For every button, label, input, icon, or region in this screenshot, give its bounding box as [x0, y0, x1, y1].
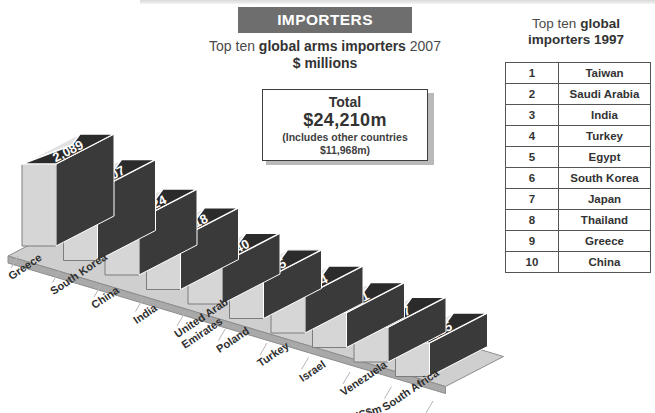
side-table-title: Top ten globalimporters 1997: [500, 16, 652, 48]
table-row: 3India: [506, 105, 651, 126]
category-label: China: [89, 284, 121, 311]
table-row: 1Taiwan: [506, 63, 651, 84]
country-cell: Turkey: [559, 126, 651, 147]
rank-cell: 3: [506, 105, 559, 126]
side-table-title-part-1: Top ten: [532, 16, 580, 31]
subtitle-part-2: global arms importers: [259, 38, 406, 54]
category-label: India: [131, 301, 159, 326]
rank-cell: 4: [506, 126, 559, 147]
axis-tick: [426, 401, 433, 413]
category-label: South Africa: [380, 366, 441, 413]
banner-title: IMPORTERS: [277, 11, 373, 29]
total-note-line-1: (Includes other countries: [282, 131, 407, 143]
table-row: 4Turkey: [506, 126, 651, 147]
total-value: $24,210m: [303, 110, 386, 131]
country-cell: India: [559, 105, 651, 126]
subtitle-part-3: 2007: [406, 38, 441, 54]
side-table-title-part-3: importers 1997: [528, 32, 624, 47]
table-row: 2Saudi Arabia: [506, 84, 651, 105]
rank-cell: 1: [506, 63, 559, 84]
country-cell: Saudi Arabia: [559, 84, 651, 105]
category-label: South Korea: [48, 250, 109, 297]
axis-unit-label: US$m: [350, 402, 384, 413]
subtitle-unit: $ millions: [160, 55, 490, 72]
side-table-title-part-2: global: [580, 16, 620, 31]
category-label: Israel: [297, 357, 328, 383]
total-label: Total: [329, 94, 361, 110]
scan-artifact-strip: [140, 0, 655, 4]
category-label: Turkey: [255, 339, 291, 369]
importers-banner: IMPORTERS: [238, 7, 412, 33]
country-cell: Taiwan: [559, 63, 651, 84]
category-label-layer: GreeceSouth KoreaChinaIndiaUnited Arab E…: [0, 150, 600, 390]
category-label: Greece: [6, 251, 44, 282]
subtitle-part-1: Top ten: [209, 38, 259, 54]
rank-cell: 2: [506, 84, 559, 105]
category-label: Venezuela: [338, 358, 389, 398]
category-label: Poland: [214, 324, 251, 355]
chart-subtitle: Top ten global arms importers 2007 $ mil…: [160, 38, 490, 72]
